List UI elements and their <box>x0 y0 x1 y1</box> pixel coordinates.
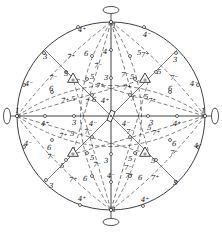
pole-marker <box>45 179 48 182</box>
pole-label: 5 <box>157 68 162 76</box>
pole-marker <box>175 52 178 55</box>
pole-label: 7⁻ <box>121 71 129 79</box>
pole-label: 5 <box>137 49 142 57</box>
pole-label: 7⁻ <box>126 128 134 136</box>
pole-marker <box>134 152 137 155</box>
pole-label: 4⁻ <box>88 120 97 128</box>
center-dot <box>110 115 112 117</box>
pole-label: 6 <box>168 85 173 93</box>
twofold-axis-icon <box>212 108 219 124</box>
pole-label: 5 <box>128 155 133 163</box>
pole-label: 7̄⁻ <box>94 62 102 70</box>
pole-label: 5 <box>60 162 65 170</box>
pole-label: 3 <box>49 182 54 190</box>
pole-marker <box>142 205 145 208</box>
pole-label: 7̄⁺ <box>59 132 67 140</box>
pole-marker <box>110 153 113 156</box>
pole-label: 7⁻ <box>170 74 178 82</box>
pole-label: 7⁺ <box>148 97 156 105</box>
pole-label: 3 <box>173 56 178 64</box>
pole-label: 6 <box>172 140 177 148</box>
pole-label: 4⁺ <box>172 120 181 128</box>
pole-label: 4⁻ <box>193 142 202 150</box>
pole-label: 7̄⁻ <box>93 161 101 169</box>
pole-label: 7⁺ <box>141 51 149 59</box>
pole-label: 7⁻ <box>124 164 132 172</box>
pole-label: 7̄⁻ <box>84 128 92 136</box>
pole-label: 7⁻ <box>130 95 138 103</box>
pole-label: 7̄⁻ <box>47 153 55 161</box>
pole-marker <box>91 55 94 58</box>
pole-label: 4⁻ <box>106 172 115 180</box>
pole-label: 4⁺ <box>100 97 109 105</box>
pole-label: 7̄⁺ <box>96 82 104 90</box>
pole-label: 3 <box>43 53 48 61</box>
pole-label: 3 <box>104 74 109 82</box>
pole-marker <box>91 175 94 178</box>
pole-marker <box>65 159 68 162</box>
pole-label: 7̄⁻ <box>49 74 57 82</box>
pole-label: 4⁺ <box>77 195 86 203</box>
pole-label: 7⁺ <box>123 84 131 92</box>
pole-label: 7̄⁺ <box>67 53 75 61</box>
pole-label: 5 <box>151 157 156 165</box>
pole-label: 7⁺ <box>152 129 160 137</box>
pole-marker <box>129 55 132 58</box>
pole-label: 3 <box>173 179 178 187</box>
pole-marker <box>44 115 47 118</box>
twofold-axis-icon <box>103 7 119 14</box>
pole-label: 6 <box>47 144 52 152</box>
pole-marker <box>51 139 54 142</box>
twofold-axis-icon <box>4 108 11 124</box>
pole-label: 7⁺ <box>151 174 159 182</box>
pole-label: 5 <box>90 73 95 81</box>
pole-label: 1 <box>112 206 116 214</box>
pole-label: 4⁻ <box>189 80 198 88</box>
pole-label: 1 <box>112 22 116 30</box>
pole-label: 1 <box>15 107 19 115</box>
pole-label: 7⁻ <box>170 149 178 157</box>
pole-marker <box>73 115 76 118</box>
pole-marker <box>110 181 113 184</box>
pole-label: 4⁻ <box>24 80 33 88</box>
pole-label: 6 <box>92 96 97 104</box>
pole-label: 7̄⁺ <box>69 176 77 184</box>
stereographic-projection: 4⁺4⁻337̄⁺64⁻7⁺57̄⁻57̄⁻5357⁻57⁻4⁻67̄⁺7⁺64… <box>0 0 222 233</box>
pole-label: 3 <box>72 119 77 127</box>
pole-label: 5 <box>130 73 135 81</box>
twofold-axis-icon <box>103 219 119 226</box>
pole-marker <box>176 115 179 118</box>
pole-marker <box>143 26 146 29</box>
pole-label: 4⁻ <box>102 48 111 56</box>
pole-label: 4⁻ <box>142 31 151 39</box>
pole-marker <box>79 204 82 207</box>
pole-label: 4⁺ <box>77 26 86 34</box>
pole-label: 5 <box>64 70 69 78</box>
pole-marker <box>110 77 113 80</box>
pole-label: 4⁻ <box>23 140 32 148</box>
pole-label: 6 <box>138 174 143 182</box>
pole-marker <box>86 78 89 81</box>
pole-label: 5 <box>71 95 76 103</box>
pole-label: 6 <box>83 175 88 183</box>
pole-label: 1 <box>201 107 205 115</box>
pole-marker <box>86 152 89 155</box>
pole-label: 7̄⁺ <box>61 97 69 105</box>
pole-label: 5 <box>70 130 75 138</box>
pole-label: 4⁻ <box>121 120 130 128</box>
pole-label: 6 <box>84 50 89 58</box>
pole-label: 7⁺ <box>125 172 133 180</box>
pole-label: 4⁺ <box>140 196 149 204</box>
pole-label: 3 <box>104 157 109 165</box>
pole-marker <box>147 115 150 118</box>
pole-label: 6 <box>49 85 54 93</box>
pole-label: 4⁺ <box>40 120 49 128</box>
